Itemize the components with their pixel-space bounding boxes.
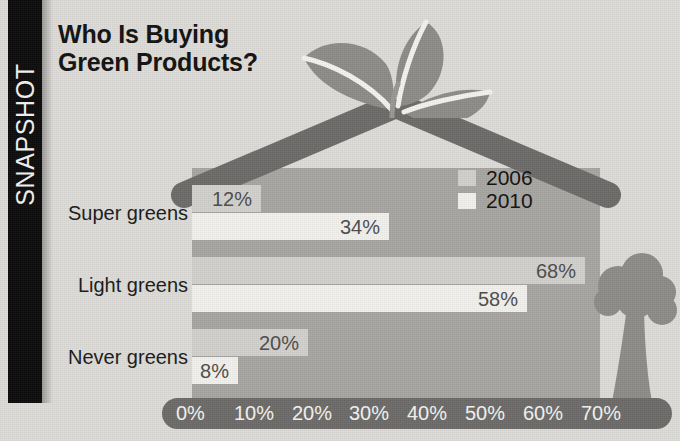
legend-label-2010: 2010 <box>486 190 533 211</box>
x-axis-tick-30: 30% <box>349 402 389 424</box>
x-axis-tick-50: 50% <box>465 402 505 424</box>
bar-2006-never-greens: 20% <box>192 329 308 356</box>
x-axis: 0%10%20%30%40%50%60%70% <box>162 398 672 429</box>
snapshot-infographic: SNAPSHOT Who Is Buying Green Products? <box>0 0 680 441</box>
x-axis-tick-70: 70% <box>581 402 621 424</box>
x-axis-tick-60: 60% <box>523 402 563 424</box>
bar-value-2006-super-greens: 12% <box>212 189 261 209</box>
category-label-super-greens: Super greens <box>68 203 188 223</box>
bar-value-2010-never-greens: 8% <box>200 361 238 381</box>
page-title: Who Is Buying Green Products? <box>58 20 258 76</box>
x-axis-tick-20: 20% <box>292 402 332 424</box>
bar-2006-super-greens: 12% <box>192 185 261 212</box>
bar-value-2006-light-greens: 68% <box>536 261 585 281</box>
category-label-light-greens: Light greens <box>78 275 188 295</box>
legend-item-2006: 2006 <box>458 166 533 189</box>
bar-2010-never-greens: 8% <box>192 357 238 384</box>
bar-2006-light-greens: 68% <box>192 257 585 284</box>
x-axis-tick-0: 0% <box>176 402 205 424</box>
legend-label-2006: 2006 <box>486 167 533 188</box>
bar-2010-light-greens: 58% <box>192 285 527 312</box>
legend-swatch-2006 <box>458 170 476 186</box>
bar-value-2010-super-greens: 34% <box>340 217 389 237</box>
x-axis-tick-10: 10% <box>234 402 274 424</box>
legend-swatch-2010 <box>458 193 476 209</box>
category-label-never-greens: Never greens <box>68 347 188 367</box>
bar-2010-super-greens: 34% <box>192 213 389 240</box>
chart-legend: 2006 2010 <box>458 166 533 212</box>
x-axis-tick-40: 40% <box>407 402 447 424</box>
legend-item-2010: 2010 <box>458 189 533 212</box>
bar-value-2010-light-greens: 58% <box>478 289 527 309</box>
bar-value-2006-never-greens: 20% <box>259 333 308 353</box>
